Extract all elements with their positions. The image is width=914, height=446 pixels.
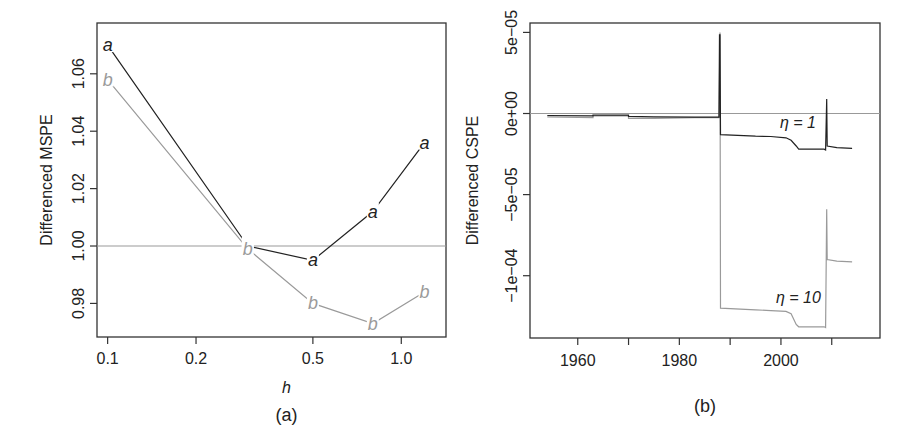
panel-b-plot-frame	[530, 23, 880, 338]
series-line-eta-1	[547, 35, 852, 150]
y-tick-label: −1e−04	[503, 248, 520, 302]
panel-b-x-axis: 196019802000	[560, 338, 832, 369]
panel-b-y-axis-title: Differenced CSPE	[464, 116, 481, 246]
y-tick-label: 5e−05	[503, 10, 520, 55]
data-point-b: b	[103, 70, 113, 90]
series-line-eta-10	[547, 32, 852, 327]
data-point-b: b	[308, 293, 318, 313]
y-tick-label: 0e+00	[503, 91, 520, 136]
panel-a-y-axis: 0.981.001.021.041.06	[70, 58, 97, 319]
panel-b-y-axis: −1e−04−5e−050e+005e−05	[503, 10, 530, 303]
panel-a-caption: (a)	[276, 405, 298, 425]
eta-10-annotation: η = 10	[776, 289, 821, 306]
y-tick-label: 1.06	[70, 58, 87, 89]
data-point-a: a	[420, 133, 430, 153]
y-tick-label: 1.02	[70, 173, 87, 204]
x-tick-label: 0.2	[185, 350, 207, 367]
series-line-a	[108, 45, 425, 260]
x-tick-label: 0.5	[302, 350, 324, 367]
data-point-a: a	[103, 35, 113, 55]
y-tick-label: 1.04	[70, 116, 87, 147]
data-point-b: b	[420, 282, 430, 302]
x-tick-label: 1.0	[390, 350, 412, 367]
x-tick-label: 0.1	[97, 350, 119, 367]
panel-a-chart: 0.10.20.51.0 0.981.001.021.041.06 aaaaab…	[38, 23, 446, 425]
x-tick-label: 2000	[763, 352, 799, 369]
panel-b-caption: (b)	[694, 396, 716, 416]
panel-a-y-axis-title: Differenced MSPE	[38, 114, 55, 245]
panel-a-x-axis: 0.10.20.51.0	[97, 337, 413, 367]
panel-a-x-axis-title: h	[282, 379, 291, 396]
y-tick-label: 1.00	[70, 230, 87, 261]
figure: 0.10.20.51.0 0.981.001.021.041.06 aaaaab…	[0, 0, 914, 446]
x-tick-label: 1960	[560, 352, 596, 369]
data-point-b: b	[243, 239, 253, 259]
panel-b-chart: 196019802000 −1e−04−5e−050e+005e−05 η = …	[464, 10, 880, 416]
y-tick-label: 0.98	[70, 288, 87, 319]
panel-b-series	[547, 32, 852, 327]
panel-a-plot-frame	[97, 23, 446, 337]
eta-1-annotation: η = 1	[780, 114, 816, 131]
y-tick-label: −5e−05	[503, 167, 520, 221]
x-tick-label: 1980	[662, 352, 698, 369]
data-point-a: a	[368, 202, 378, 222]
data-point-b: b	[368, 314, 378, 334]
panel-a-series: aaaaabbbbb	[102, 35, 431, 333]
data-point-a: a	[308, 250, 318, 270]
